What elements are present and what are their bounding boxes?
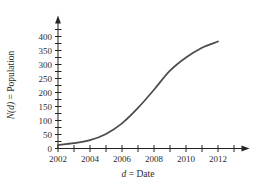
x-tick-label: 2008 xyxy=(145,154,164,164)
y-tick-label: 350 xyxy=(39,46,53,56)
y-tick-label: 100 xyxy=(39,116,53,126)
y-tick-label: 400 xyxy=(39,32,53,42)
x-axis-arrowhead-icon xyxy=(242,146,250,152)
y-axis-variable: N(d) xyxy=(6,102,17,120)
y-axis-title: N(d) = Population xyxy=(6,50,17,120)
x-tick-label: 2010 xyxy=(177,154,196,164)
x-axis-title-rest: = Date xyxy=(126,169,154,179)
y-axis-arrowhead-icon xyxy=(55,16,61,24)
y-tick-label: 250 xyxy=(39,74,53,84)
x-tick-label: 2002 xyxy=(49,154,67,164)
y-axis-title-rest: = Population xyxy=(6,50,16,102)
y-tick-label: 300 xyxy=(39,60,53,70)
x-tick-label: 2004 xyxy=(81,154,100,164)
y-tick-label: 200 xyxy=(39,88,53,98)
y-tick-label: 50 xyxy=(43,130,53,140)
y-tick-label: 150 xyxy=(39,102,53,112)
x-tick-label: 2006 xyxy=(113,154,132,164)
x-tick-label: 2012 xyxy=(209,154,227,164)
x-axis-title: d = Date xyxy=(122,169,155,179)
chart-generated-layer: 0501001502002503003504002002200420062008… xyxy=(39,16,250,164)
y-tick-label: 0 xyxy=(48,144,53,154)
population-curve xyxy=(58,42,218,145)
population-logistic-figure: 0501001502002503003504002002200420062008… xyxy=(0,0,256,189)
population-chart: 0501001502002503003504002002200420062008… xyxy=(0,0,256,189)
